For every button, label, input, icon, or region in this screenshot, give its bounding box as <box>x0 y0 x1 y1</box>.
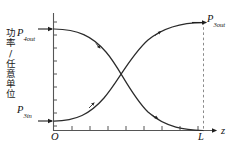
x-axis-label: z <box>221 125 225 136</box>
label-p3in-subscript: 3in <box>23 112 31 119</box>
label-p3out: P3out <box>207 13 225 24</box>
y-axis <box>54 13 58 131</box>
curve-p4out-direction-arrows <box>96 44 157 119</box>
label-p4out-subscript: 4out <box>23 35 35 42</box>
curve-p3-growth <box>54 23 203 122</box>
label-p3out-subscript: 3out <box>213 21 225 28</box>
x-end-label: L <box>198 131 204 142</box>
label-p4out: P4out <box>17 27 35 38</box>
label-p3in: P3in <box>17 104 32 115</box>
curve-p4out-decay <box>54 29 203 131</box>
origin-label: O <box>51 131 59 142</box>
power-transfer-figure: 功率/任意单位 <box>0 0 233 159</box>
